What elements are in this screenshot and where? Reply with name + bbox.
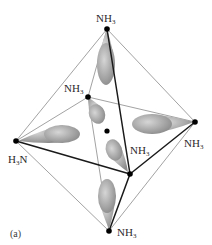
ligand-label-right: NH3 <box>184 138 203 149</box>
edge-top-left <box>16 29 107 141</box>
vertex-top <box>104 26 110 32</box>
back-lobe <box>86 98 108 126</box>
ligand-label-back: NH3 <box>64 83 83 94</box>
vertex-right <box>192 119 198 125</box>
ligand-label-left: H3N <box>8 154 27 165</box>
vertex-back <box>85 94 91 100</box>
metal-center-dot <box>104 128 109 133</box>
vertex-front <box>127 171 133 177</box>
edge-right-bottom <box>109 122 195 231</box>
ligand-label-front: NH3 <box>130 145 149 156</box>
ligand-label-top: NH3 <box>96 13 115 24</box>
bottom-lobe <box>98 179 116 229</box>
figure-caption: (a) <box>10 229 21 239</box>
vertex-left <box>13 138 19 144</box>
ligand-label-bottom: NH3 <box>117 227 136 238</box>
octahedron-svg <box>0 0 212 245</box>
vertex-bottom <box>106 228 112 234</box>
octahedral-complex-diagram: NH3NH3H3NNH3NH3NH3 (a) <box>0 0 212 245</box>
